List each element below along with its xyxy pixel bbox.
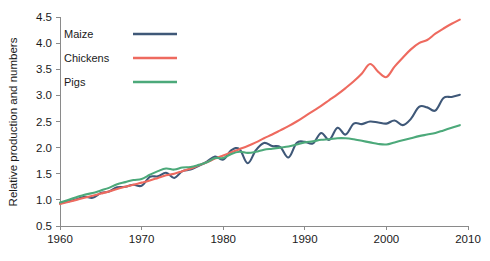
- y-tick-label: 1.0: [36, 194, 52, 206]
- y-tick-label: 4.5: [36, 11, 52, 23]
- y-tick-label: 3.0: [36, 89, 52, 101]
- x-tick-label: 1990: [292, 233, 318, 245]
- line-chart: Relative production and numbers 0.51.01.…: [0, 0, 490, 261]
- y-axis-ticks: 0.51.01.52.02.53.03.54.04.5: [36, 11, 60, 232]
- y-axis-title: Relative production and numbers: [7, 37, 19, 206]
- x-axis-ticks: 196019701980199020002010: [47, 226, 481, 245]
- legend-label-pigs: Pigs: [64, 76, 86, 88]
- y-tick-label: 4.0: [36, 37, 52, 49]
- y-tick-label: 2.5: [36, 116, 52, 128]
- x-tick-label: 1970: [129, 233, 155, 245]
- legend-label-maize: Maize: [64, 28, 93, 40]
- chart-container: Relative production and numbers 0.51.01.…: [0, 0, 490, 261]
- x-tick-label: 2010: [455, 233, 481, 245]
- y-tick-label: 2.0: [36, 142, 52, 154]
- x-tick-label: 1960: [47, 233, 73, 245]
- y-tick-label: 3.5: [36, 63, 52, 75]
- legend-label-chickens: Chickens: [64, 52, 110, 64]
- y-tick-label: 1.5: [36, 168, 52, 180]
- x-tick-label: 2000: [374, 233, 400, 245]
- y-tick-label: 0.5: [36, 220, 52, 232]
- series-lines: [60, 20, 460, 204]
- series-line-pigs: [60, 125, 460, 202]
- series-line-chickens: [60, 20, 460, 204]
- x-tick-label: 1980: [210, 233, 236, 245]
- chart-legend: MaizeChickensPigs: [64, 28, 177, 88]
